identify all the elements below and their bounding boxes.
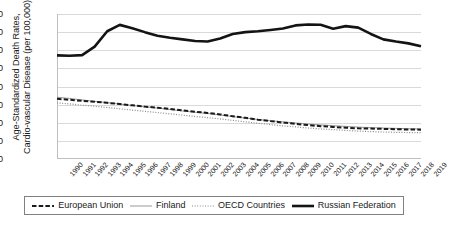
thin-line-swatch <box>130 202 152 210</box>
y-axis-tick-label: 700 <box>0 27 3 37</box>
y-axis-tick-label: 200 <box>0 118 3 128</box>
legend-label: European Union <box>58 201 123 210</box>
dotted-line-swatch <box>192 202 214 210</box>
x-axis-ticks: 1990199119921993199419951996199719981999… <box>57 161 421 195</box>
x-axis-tick-label: 2019 <box>432 161 448 178</box>
legend-label: Finland <box>156 201 186 210</box>
legend-label: Russian Federation <box>318 201 396 210</box>
legend-item-russian-federation[interactable]: Russian Federation <box>292 201 396 210</box>
thick-line-swatch <box>292 202 314 210</box>
legend-item-finland[interactable]: Finland <box>130 201 186 210</box>
legend-item-oecd-countries[interactable]: OECD Countries <box>192 201 285 210</box>
y-axis-tick-label: 600 <box>0 45 3 55</box>
dashed-line-swatch <box>32 202 54 210</box>
legend-item-european-union[interactable]: European Union <box>32 201 123 210</box>
y-axis-tick-label: 100 <box>0 136 3 146</box>
y-axis-tick-label: 0 <box>0 154 3 164</box>
legend-label: OECD Countries <box>218 201 285 210</box>
y-axis-tick-label: 400 <box>0 82 3 92</box>
y-axis-tick-label: 300 <box>0 100 3 110</box>
y-axis-tick-label: 800 <box>0 9 3 19</box>
y-axis-tick-label: 500 <box>0 64 3 74</box>
legend: European UnionFinlandOECD CountriesRussi… <box>24 196 404 215</box>
